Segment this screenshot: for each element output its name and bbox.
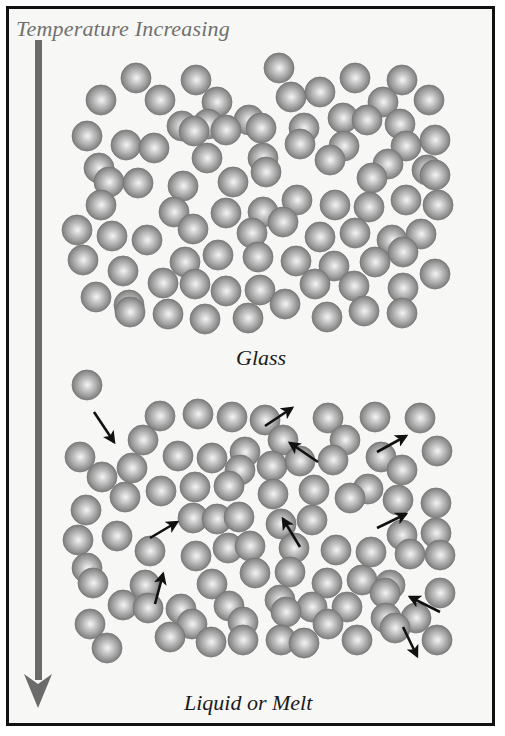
- sphere: [111, 130, 141, 160]
- sphere: [181, 541, 211, 571]
- sphere: [321, 535, 351, 565]
- sphere: [117, 453, 147, 483]
- sphere: [251, 157, 281, 187]
- sphere: [228, 625, 258, 655]
- liquid-spheres: [63, 370, 455, 663]
- sphere: [340, 218, 370, 248]
- sphere: [211, 276, 241, 306]
- sphere: [86, 190, 116, 220]
- sphere: [68, 245, 98, 275]
- sphere: [297, 505, 327, 535]
- temperature-arrow: [24, 40, 52, 708]
- sphere: [211, 115, 241, 145]
- sphere: [352, 105, 382, 135]
- sphere: [318, 445, 348, 475]
- sphere: [181, 65, 211, 95]
- sphere: [153, 299, 183, 329]
- sphere: [289, 628, 319, 658]
- sphere: [180, 472, 210, 502]
- sphere: [422, 436, 452, 466]
- sphere: [128, 425, 158, 455]
- sphere: [305, 77, 335, 107]
- sphere: [72, 121, 102, 151]
- sphere: [268, 207, 298, 237]
- sphere: [192, 143, 222, 173]
- sphere: [71, 495, 101, 525]
- sphere: [387, 455, 417, 485]
- sphere: [197, 443, 227, 473]
- sphere: [243, 242, 273, 272]
- sphere: [388, 237, 418, 267]
- sphere: [387, 298, 417, 328]
- sphere: [270, 289, 300, 319]
- sphere: [395, 539, 425, 569]
- sphere: [196, 627, 226, 657]
- sphere: [240, 558, 270, 588]
- sphere: [246, 113, 276, 143]
- sphere: [179, 116, 209, 146]
- sphere: [340, 63, 370, 93]
- sphere: [360, 247, 390, 277]
- sphere: [87, 462, 117, 492]
- sphere: [357, 163, 387, 193]
- sphere: [78, 568, 108, 598]
- sphere: [183, 399, 213, 429]
- sphere: [300, 269, 330, 299]
- sphere: [276, 82, 306, 112]
- sphere: [211, 198, 241, 228]
- sphere: [214, 471, 244, 501]
- sphere: [383, 485, 413, 515]
- sphere: [146, 476, 176, 506]
- sphere: [72, 370, 102, 400]
- sphere: [190, 304, 220, 334]
- sphere: [102, 521, 132, 551]
- sphere: [155, 622, 185, 652]
- motion-arrow-icon: [150, 522, 177, 538]
- sphere: [123, 168, 153, 198]
- sphere: [145, 85, 175, 115]
- sphere: [133, 593, 163, 623]
- sphere: [168, 171, 198, 201]
- sphere: [305, 222, 335, 252]
- sphere: [405, 403, 435, 433]
- sphere: [420, 259, 450, 289]
- sphere: [422, 625, 452, 655]
- sphere: [132, 225, 162, 255]
- sphere: [121, 63, 151, 93]
- sphere: [349, 296, 379, 326]
- sphere: [218, 167, 248, 197]
- glass-label: Glass: [236, 345, 286, 371]
- sphere: [217, 402, 247, 432]
- sphere: [180, 269, 210, 299]
- sphere: [271, 597, 301, 627]
- sphere: [235, 531, 265, 561]
- sphere: [233, 303, 263, 333]
- motion-arrow-icon: [94, 412, 114, 442]
- sphere: [135, 536, 165, 566]
- sphere: [203, 240, 233, 270]
- sphere: [81, 282, 111, 312]
- sphere: [414, 85, 444, 115]
- sphere: [139, 133, 169, 163]
- sphere: [163, 441, 193, 471]
- liquid-label: Liquid or Melt: [184, 690, 312, 716]
- sphere: [115, 297, 145, 327]
- glass-spheres: [62, 53, 453, 334]
- sphere: [285, 129, 315, 159]
- sphere: [97, 221, 127, 251]
- sphere: [421, 488, 451, 518]
- sphere: [391, 185, 421, 215]
- sphere: [360, 402, 390, 432]
- sphere: [108, 256, 138, 286]
- sphere: [354, 192, 384, 222]
- sphere: [258, 479, 288, 509]
- sphere: [423, 190, 453, 220]
- sphere: [63, 525, 93, 555]
- temperature-arrow-shaft: [35, 40, 42, 680]
- sphere: [312, 302, 342, 332]
- sphere: [342, 625, 372, 655]
- sphere: [335, 483, 365, 513]
- sphere: [92, 633, 122, 663]
- sphere: [148, 268, 178, 298]
- sphere: [313, 609, 343, 639]
